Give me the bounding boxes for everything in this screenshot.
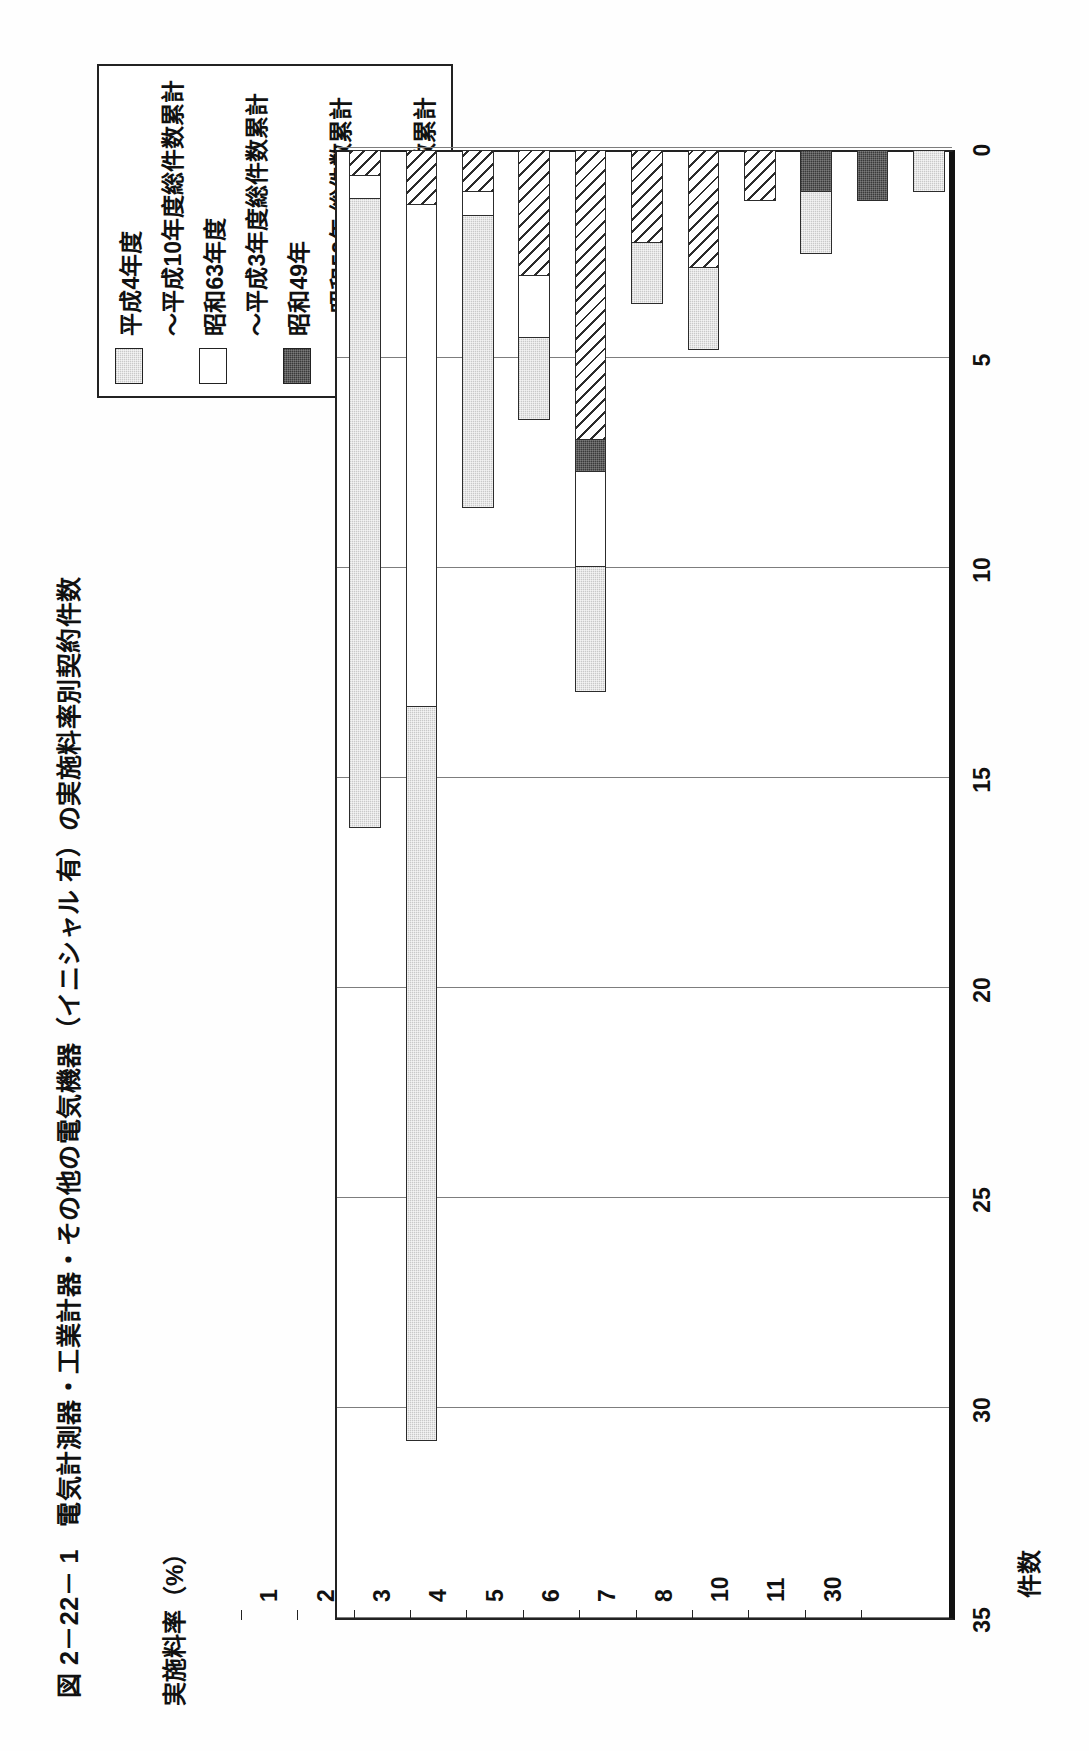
gridline: [337, 147, 952, 148]
bar-segment: [743, 150, 775, 200]
category-tick-label: 10: [706, 1576, 733, 1602]
category-tick-mark: [691, 1610, 692, 1620]
bar-segment: [405, 150, 437, 205]
bar-segment: [574, 438, 606, 472]
value-tick-label: 0: [969, 143, 996, 156]
category-tick-label: 1: [255, 1589, 282, 1602]
bar-segment: [913, 150, 945, 192]
bar-segment: [518, 150, 550, 276]
bar-segment: [574, 565, 606, 691]
bar-row: [631, 152, 663, 1618]
legend-label: 昭和63年度: [196, 218, 230, 336]
bar-row: [405, 152, 437, 1618]
category-tick-mark: [466, 1610, 467, 1620]
category-tick-label: 30: [819, 1576, 846, 1602]
bar-row: [518, 152, 550, 1618]
bar-segment: [631, 241, 663, 304]
bar-segment: [856, 150, 888, 200]
category-tick-label: 6: [537, 1589, 564, 1602]
category-tick-mark: [410, 1610, 411, 1620]
category-tick-label: 8: [650, 1589, 677, 1602]
figure-canvas: 図 2－22－ 1電気計測器・工業計器・その他の電気機器（イニシャル 有）の実施…: [35, 36, 1055, 1716]
bar-segment: [405, 705, 437, 1440]
value-tick-label: 5: [969, 353, 996, 366]
figure-title: 図 2－22－ 1電気計測器・工業計器・その他の電気機器（イニシャル 有）の実施…: [49, 576, 85, 1698]
bar-segment: [518, 274, 550, 337]
bar-segment: [405, 203, 437, 707]
plot-area: [335, 150, 955, 1620]
category-tick-label: 2: [312, 1589, 339, 1602]
scanned-page: 図 2－22－ 1電気計測器・工業計器・その他の電気機器（イニシャル 有）の実施…: [0, 0, 1089, 1751]
bar-segment: [574, 470, 606, 567]
category-tick-mark: [635, 1610, 636, 1620]
category-tick-mark: [579, 1610, 580, 1620]
category-tick-label: 4: [424, 1589, 451, 1602]
bar-segment: [687, 150, 719, 268]
legend-swatch-heisei4-icon: [115, 347, 143, 383]
value-axis-label: 件数: [1010, 1550, 1045, 1598]
legend-label: 平成4年度: [112, 230, 146, 335]
bar-segment: [349, 197, 381, 827]
bar-segment: [518, 336, 550, 420]
category-axis-label: 実施料率（%）: [155, 1540, 190, 1705]
value-tick-label: 20: [969, 977, 996, 1003]
category-tick-mark: [297, 1610, 298, 1620]
category-tick-label: 11: [762, 1577, 789, 1601]
bar-segment: [574, 150, 606, 440]
bar-row: [800, 152, 832, 1618]
legend-item: 昭和63年度: [193, 80, 233, 384]
value-axis-baseline: [949, 152, 952, 1618]
category-tick-mark: [804, 1610, 805, 1620]
category-tick-mark: [241, 1610, 242, 1620]
bar-segment: [631, 150, 663, 242]
bar-row: [462, 152, 494, 1618]
bar-segment: [462, 150, 494, 192]
value-tick-label: 25: [969, 1187, 996, 1213]
legend-label-2: ～平成10年度総件数累計: [154, 80, 188, 336]
category-axis: 12345678101130: [241, 150, 331, 1620]
figure-title-text: 電気計測器・工業計器・その他の電気機器（イニシャル 有）の実施料率別契約件数: [55, 576, 83, 1527]
bar-row: [687, 152, 719, 1618]
category-tick-mark: [861, 1610, 862, 1620]
bar-segment: [462, 214, 494, 508]
legend-item: 平成4年度: [109, 80, 149, 384]
category-tick-mark: [748, 1610, 749, 1620]
bar-row: [349, 152, 381, 1618]
bar-segment: [800, 190, 832, 253]
value-tick-label: 30: [969, 1397, 996, 1423]
bar-row: [856, 152, 888, 1618]
bar-segment: [349, 174, 381, 199]
bar-row: [913, 152, 945, 1618]
value-tick-label: 35: [969, 1607, 996, 1633]
value-tick-label: 15: [969, 767, 996, 793]
value-tick-label: 10: [969, 557, 996, 583]
bar-segment: [800, 150, 832, 192]
bar-row: [743, 152, 775, 1618]
category-tick-label: 5: [481, 1589, 508, 1602]
bar-segment: [462, 190, 494, 215]
figure-number: 図 2－22－ 1: [55, 1548, 83, 1697]
category-tick-mark: [353, 1610, 354, 1620]
category-tick-label: 7: [593, 1589, 620, 1602]
bar-segment: [349, 150, 381, 175]
bar-segment: [687, 266, 719, 350]
category-tick-mark: [522, 1610, 523, 1620]
legend-swatch-showa63-icon: [199, 347, 227, 383]
value-axis: 05101520253035: [967, 150, 1007, 1620]
category-tick-label: 3: [368, 1589, 395, 1602]
legend-item-continued: ～平成10年度総件数累計: [151, 80, 191, 384]
bar-row: [574, 152, 606, 1618]
